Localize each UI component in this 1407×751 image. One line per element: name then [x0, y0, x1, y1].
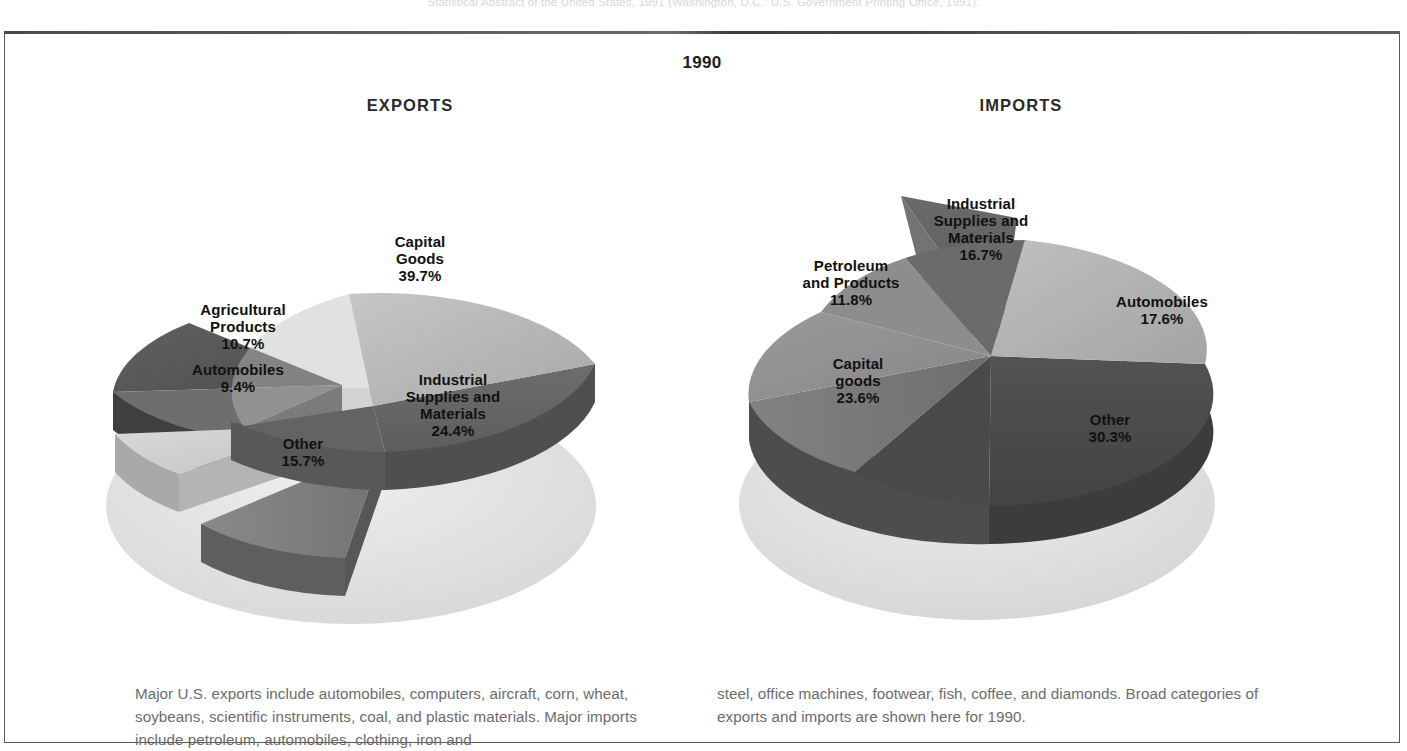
exports-label-automobiles: Automobiles 9.4%	[153, 362, 323, 396]
panel-title-imports: IMPORTS	[861, 96, 1181, 115]
exports-label-industrial-supplies: Industrial Supplies and Materials 24.4%	[363, 372, 543, 440]
exports-label-agricultural-products: Agricultural Products 10.7%	[163, 302, 323, 353]
figure-year-title: 1990	[5, 53, 1399, 73]
imports-label-industrial-supplies: Industrial Supplies and Materials 16.7%	[901, 196, 1061, 264]
figure-frame: 1990 EXPORTS IMPORTS	[4, 33, 1400, 743]
exports-label-capital-goods: Capital Goods 39.7%	[345, 234, 495, 285]
panel-title-exports: EXPORTS	[250, 96, 570, 115]
exports-label-other: Other 15.7%	[243, 436, 363, 470]
imports-label-other: Other 30.3%	[1045, 412, 1175, 446]
source-citation: Statistical Abstract of the United State…	[0, 0, 1407, 10]
caption-text-right: steel, office machines, footwear, fish, …	[717, 682, 1277, 728]
imports-label-automobiles: Automobiles 17.6%	[1077, 294, 1247, 328]
exports-pie-chart: Agricultural Products 10.7% Automobiles …	[83, 134, 643, 648]
caption-column-left: Major U.S. exports include automobiles, …	[135, 682, 665, 751]
caption-column-right: steel, office machines, footwear, fish, …	[717, 682, 1277, 728]
imports-label-capital-goods: Capital goods 23.6%	[783, 356, 933, 407]
caption-text-left: Major U.S. exports include automobiles, …	[135, 682, 665, 751]
imports-pie-chart: Industrial Supplies and Materials 16.7% …	[705, 134, 1265, 648]
imports-label-petroleum: Petroleum and Products 11.8%	[771, 258, 931, 309]
